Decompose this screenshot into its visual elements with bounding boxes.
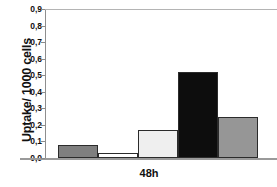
y-tick-mark (41, 75, 45, 76)
y-tick-mark (41, 92, 45, 93)
bar-chart: Uptake/ 1000 cells 0,00,10,20,30,40,50,6… (0, 0, 277, 187)
y-tick-mark (41, 26, 45, 27)
y-tick-mark (41, 9, 45, 10)
y-tick-mark (41, 108, 45, 109)
bar-5 (218, 117, 258, 158)
bar-2 (98, 153, 138, 158)
y-tick-mark (41, 141, 45, 142)
bar-4 (178, 72, 218, 158)
x-axis-label: 48h (45, 167, 253, 179)
bar-1 (58, 145, 98, 158)
y-tick-mark (41, 125, 45, 126)
y-tick-mark (41, 158, 45, 159)
y-tick-mark (41, 42, 45, 43)
bar-3 (138, 130, 178, 158)
y-tick-mark (41, 59, 45, 60)
